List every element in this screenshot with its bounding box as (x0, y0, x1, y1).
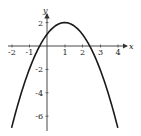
x-tick-label: 3 (98, 48, 103, 57)
y-tick-label: 2 (38, 19, 43, 28)
y-tick-label: -4 (35, 89, 43, 98)
x-tick-label: -1 (26, 48, 34, 57)
parabola-curve (12, 23, 118, 128)
x-axis-label: x (129, 42, 134, 51)
x-tick-label: -2 (8, 48, 16, 57)
parabola-plot: -2 -1 1 2 3 4 2 -2 -4 -6 x y (0, 0, 141, 136)
y-tick-label: -2 (35, 65, 43, 74)
x-tick-label: 1 (62, 48, 67, 57)
x-tick-label: 2 (80, 48, 85, 57)
y-axis-label: y (42, 6, 48, 15)
y-tick-label: -6 (35, 112, 43, 121)
x-tick-label: 4 (115, 48, 120, 57)
